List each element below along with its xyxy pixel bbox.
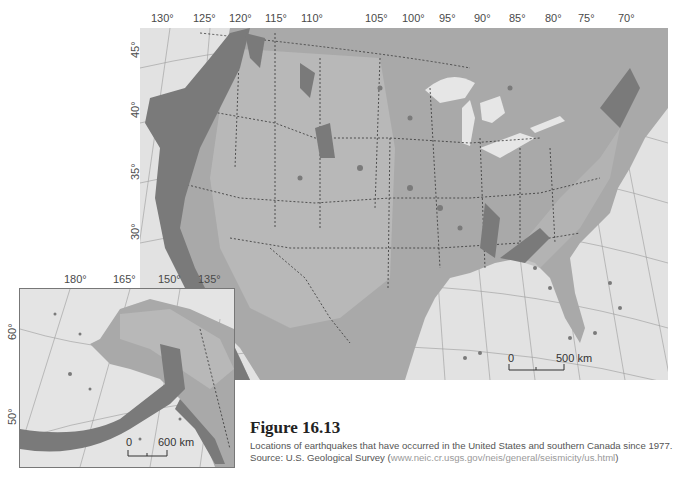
lon-label: 75°	[578, 12, 595, 24]
scale-bar-graphic	[508, 364, 568, 374]
scale-end: 500 km	[556, 352, 592, 364]
lon-label: 120°	[229, 12, 252, 24]
lon-label: 105°	[365, 12, 388, 24]
scale-start: 0	[126, 436, 132, 448]
lat-label: 50°	[6, 408, 18, 425]
scale-start: 0	[508, 352, 514, 364]
figure-number: Figure 16.13	[250, 418, 340, 438]
figure-caption: Locations of earthquakes that have occur…	[250, 440, 690, 464]
lon-label: 165°	[113, 273, 136, 285]
lon-label: 70°	[618, 12, 635, 24]
lon-label: 100°	[402, 12, 425, 24]
lon-label: 85°	[509, 12, 526, 24]
lon-label: 110°	[301, 12, 323, 24]
lon-label: 125°	[193, 12, 216, 24]
lon-label: 150°	[158, 273, 181, 285]
lat-label: 60°	[6, 323, 18, 340]
lon-label: 115°	[265, 12, 287, 24]
caption-suffix: )	[615, 452, 618, 463]
scale-end: 600 km	[158, 436, 194, 448]
scale-bar-graphic	[127, 450, 172, 460]
lon-label: 130°	[151, 12, 174, 24]
source-link[interactable]: www.neic.cr.usgs.gov/neis/general/seismi…	[391, 452, 615, 463]
lon-label: 180°	[64, 273, 87, 285]
lon-label: 135°	[198, 273, 221, 285]
lon-label: 80°	[545, 12, 562, 24]
lon-label: 95°	[439, 12, 456, 24]
lon-label: 90°	[474, 12, 491, 24]
